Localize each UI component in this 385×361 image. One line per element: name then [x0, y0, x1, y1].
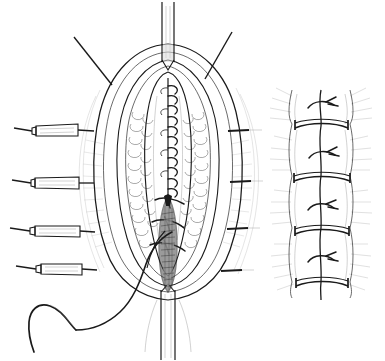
retractor-right-2 — [230, 181, 251, 182]
retractor-right-1 — [228, 130, 249, 131]
illustration-canvas — [0, 0, 385, 361]
figure-background — [0, 0, 385, 361]
retractor-right-3 — [227, 228, 248, 229]
surgical-illustration-figure — [0, 0, 385, 361]
retractor-right-4 — [221, 270, 242, 271]
